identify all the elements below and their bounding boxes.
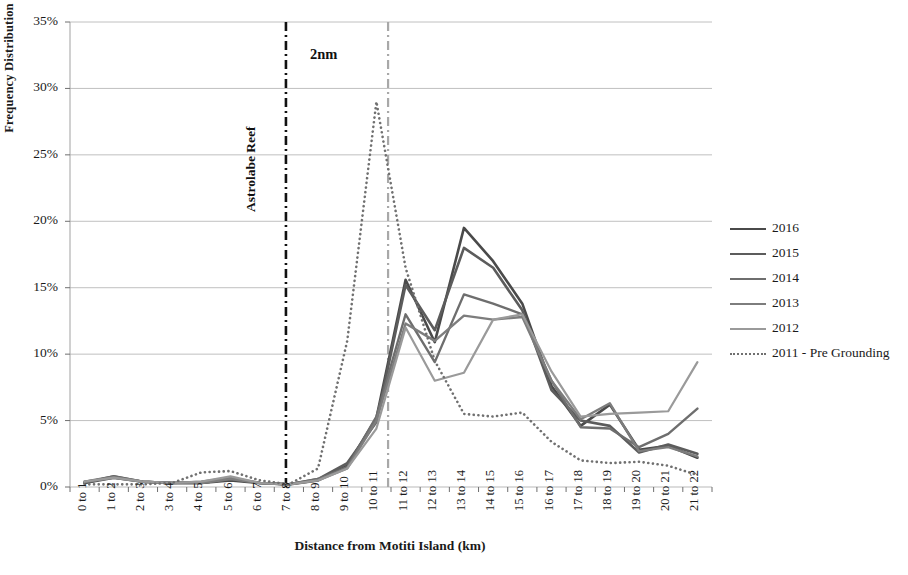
y-tick-label: 30% (16, 79, 58, 95)
x-tick-label: 14 to 15 (483, 470, 498, 511)
legend-item[interactable]: 2016 (730, 215, 908, 240)
x-tick-label: 12 to 13 (425, 470, 440, 511)
legend-label: 2014 (772, 270, 799, 286)
legend-swatch-icon (730, 322, 766, 334)
chart-legend: 201620152014201320122011 - Pre Grounding (730, 215, 908, 365)
legend-swatch-icon (730, 247, 766, 259)
frequency-distribution-chart: Frequency Distribution Distance from Mot… (0, 0, 908, 575)
legend-item[interactable]: 2014 (730, 265, 908, 290)
legend-label: 2016 (772, 220, 799, 236)
x-tick-label: 1 to 2 (104, 483, 119, 511)
legend-item[interactable]: 2013 (730, 290, 908, 315)
legend-label: 2015 (772, 245, 799, 261)
series-line-2014 (85, 294, 698, 484)
x-tick-label: 5 to 6 (221, 483, 236, 511)
x-tick-label: 13 to 14 (454, 470, 469, 511)
legend-swatch-icon (730, 222, 766, 234)
x-tick-label: 20 to 21 (658, 470, 673, 511)
reference-lines (286, 22, 388, 487)
series-line-2012 (85, 314, 698, 484)
annotation-astrolabe-reef: Astrolabe Reef (243, 126, 259, 212)
y-tick-label: 15% (16, 279, 58, 295)
legend-swatch-icon (730, 297, 766, 309)
x-tick-label: 11 to 12 (396, 470, 411, 511)
x-tick-label: 9 to 10 (337, 476, 352, 511)
x-tick-label: 8 to 9 (308, 483, 323, 511)
x-tick-label: 21 to 22 (687, 470, 702, 511)
x-axis-title: Distance from Motiti Island (km) (170, 538, 610, 554)
y-tick-label: 35% (16, 13, 58, 29)
y-tick-label: 5% (16, 412, 58, 428)
y-axis-title: Frequency Distribution (2, 0, 17, 178)
legend-label: 2011 - Pre Grounding (772, 345, 890, 361)
legend-item[interactable]: 2011 - Pre Grounding (730, 340, 908, 365)
x-tick-label: 17 to 18 (571, 470, 586, 511)
legend-swatch-icon (730, 272, 766, 284)
legend-item[interactable]: 2012 (730, 315, 908, 340)
x-tick-label: 7 to 8 (279, 483, 294, 511)
x-tick-label: 6 to 7 (250, 483, 265, 511)
legend-swatch-icon (730, 347, 766, 359)
x-tick-label: 4 to 5 (191, 483, 206, 511)
x-tick-label: 19 to 20 (629, 470, 644, 511)
y-tick-label: 25% (16, 146, 58, 162)
legend-label: 2012 (772, 320, 799, 336)
y-tick-label: 10% (16, 345, 58, 361)
legend-label: 2013 (772, 295, 799, 311)
series-line-2011-pre-grounding (85, 102, 698, 485)
legend-item[interactable]: 2015 (730, 240, 908, 265)
x-tick-label: 3 to 4 (162, 483, 177, 511)
x-tick-label: 2 to 3 (133, 483, 148, 511)
x-tick-label: 10 to 11 (366, 470, 381, 511)
x-tick-label: 18 to 19 (600, 470, 615, 511)
x-tick-label: 15 to 16 (512, 470, 527, 511)
y-tick-label: 20% (16, 212, 58, 228)
series-line-2013 (85, 316, 698, 485)
x-tick-label: 0 to 1 (75, 483, 90, 511)
data-series (85, 102, 698, 485)
annotation-2nm: 2nm (310, 46, 337, 63)
y-tick-label: 0% (16, 478, 58, 494)
chart-root: Frequency Distribution Distance from Mot… (0, 0, 908, 575)
x-tick-label: 16 to 17 (542, 470, 557, 511)
